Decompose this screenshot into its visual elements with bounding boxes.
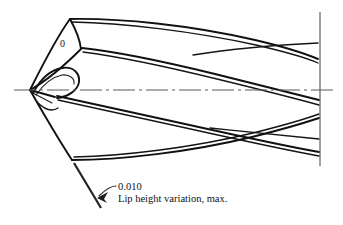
upper-flute-edge-secondary <box>83 52 319 105</box>
lip-height-dimension-line <box>74 163 101 208</box>
lip-height-description-label: Lip height variation, max. <box>118 193 227 205</box>
upper-lip-corner-curve <box>70 19 81 49</box>
upper-flute-edge <box>82 48 319 100</box>
lower-lip-face-edge <box>30 90 72 160</box>
drill-point-illustration <box>0 0 343 225</box>
upper-outer-margin <box>70 19 318 59</box>
lower-flute-edge <box>57 96 319 152</box>
technical-drawing-figure: 0 0.010 Lip height variation, max. <box>0 0 343 225</box>
leader-arrowhead <box>97 192 108 203</box>
lip-height-leader <box>99 186 116 196</box>
lip-height-value-label: 0.010 <box>118 181 142 193</box>
web-relief-inner <box>36 75 74 95</box>
lower-outer-margin <box>72 118 319 160</box>
lip-angle-label: 0 <box>60 38 65 49</box>
upper-lip-face-edge <box>30 19 70 90</box>
lower-flute-edge-secondary <box>58 100 319 156</box>
